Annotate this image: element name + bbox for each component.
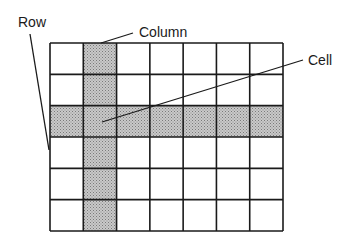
column-label: Column <box>139 24 187 40</box>
spreadsheet-grid-diagram: Row Column Cell <box>0 0 357 247</box>
row-label: Row <box>18 14 46 30</box>
row-leader-line <box>30 34 49 150</box>
cell-label: Cell <box>308 52 332 68</box>
column-leader-line <box>101 33 133 43</box>
